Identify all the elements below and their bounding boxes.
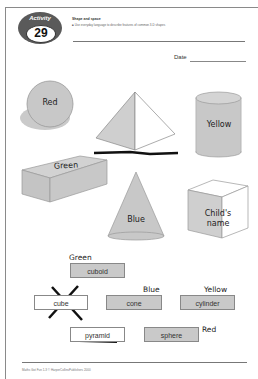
- pyramid-underline: [94, 152, 178, 154]
- label-sphere: sphere: [144, 327, 199, 342]
- cylinder-color-label: Yellow: [198, 120, 240, 129]
- sphere-color-label: Red: [34, 98, 66, 107]
- child-name-line1: Child's: [205, 209, 232, 218]
- cylinder-annotation: Yellow: [204, 285, 227, 294]
- label-cone: cone: [106, 295, 162, 310]
- label-cylinder: cylinder: [180, 295, 235, 310]
- label-cube: cube: [34, 295, 88, 310]
- footer-credit: Maths Got Fun 1-3 © HarperCollinsPublish…: [22, 368, 91, 372]
- cone-shape: [108, 172, 164, 240]
- shapes-illustration: [0, 0, 258, 379]
- label-pyramid: pyramid: [70, 327, 125, 342]
- pyramid-shape: [96, 92, 175, 150]
- cone-color-label: Blue: [120, 215, 152, 224]
- cuboid-color-label: Green: [48, 160, 84, 171]
- footer-rule: [22, 362, 247, 363]
- label-cuboid: cuboid: [70, 263, 125, 278]
- sphere-annotation: Red: [202, 325, 216, 334]
- cone-annotation: Blue: [143, 285, 160, 294]
- cuboid-annotation: Green: [69, 253, 92, 262]
- child-name-line2: name: [207, 219, 230, 228]
- cube-child-name-label: Child's name: [198, 209, 238, 229]
